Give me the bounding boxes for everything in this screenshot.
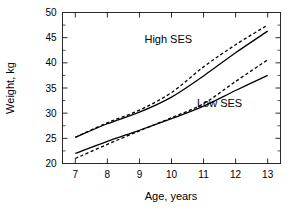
y-axis-title: Weight, kg — [4, 62, 16, 114]
weight-by-age-line-chart: 20253035404550 78910111213 Age, years We… — [0, 0, 300, 212]
annotation-low-ses: Low SES — [197, 97, 242, 109]
x-tick-label: 10 — [166, 169, 178, 180]
chart-figure: 20253035404550 78910111213 Age, years We… — [0, 0, 300, 212]
x-tick-label: 9 — [137, 169, 143, 180]
x-axis-title: Age, years — [145, 190, 198, 202]
y-tick-label: 40 — [45, 57, 57, 68]
x-tick-label: 12 — [230, 169, 242, 180]
annotation-high-ses: High SES — [144, 33, 192, 45]
y-tick-label: 45 — [45, 32, 57, 43]
y-tick-label: 20 — [45, 158, 57, 169]
x-tick-label: 7 — [73, 169, 79, 180]
x-tick-label: 11 — [198, 169, 209, 180]
y-tick-label: 30 — [45, 108, 57, 119]
x-tick-label: 8 — [105, 169, 111, 180]
y-tick-label: 50 — [45, 7, 57, 18]
x-tick-label: 13 — [262, 169, 274, 180]
y-tick-label: 35 — [45, 83, 57, 94]
y-tick-label: 25 — [45, 133, 57, 144]
